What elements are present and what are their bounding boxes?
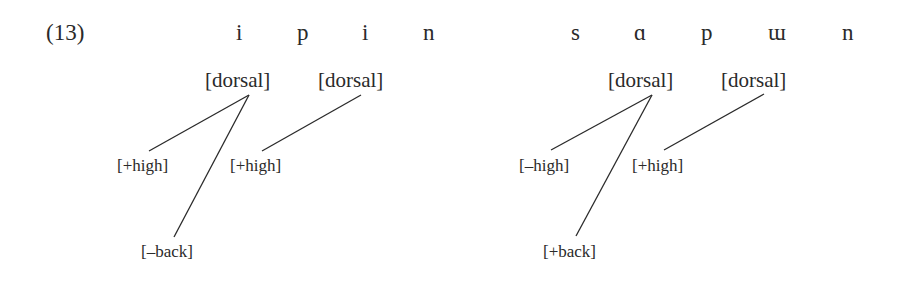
association-line	[664, 94, 764, 150]
association-line	[262, 95, 361, 151]
association-lines	[0, 0, 903, 284]
